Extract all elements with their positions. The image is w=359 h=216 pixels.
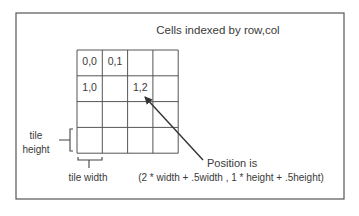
cell-label: 1,2 xyxy=(133,81,148,93)
tile-height-label-line1: tile xyxy=(30,130,43,141)
diagram-canvas: Cells indexed by row,col 0,00,11,01,2 ti… xyxy=(0,0,359,216)
diagram-title: Cells indexed by row,col xyxy=(156,24,279,36)
cell-label: 0,0 xyxy=(82,55,97,67)
tile-height-label-line2: height xyxy=(22,144,49,155)
cell-label: 0,1 xyxy=(108,55,123,67)
position-annotation-line1: Position is xyxy=(207,157,258,169)
tile-width-label: tile width xyxy=(69,172,108,183)
position-annotation-line2: (2 * width + .5width , 1 * height + .5he… xyxy=(138,172,324,183)
cell-label: 1,0 xyxy=(82,81,97,93)
